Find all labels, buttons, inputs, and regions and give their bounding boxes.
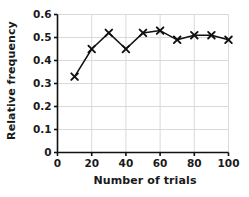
relative-frequency-chart: Relative frequency Number of trials 00.1… bbox=[0, 0, 249, 197]
y-tick-label: 0 bbox=[44, 146, 51, 158]
data-point-marker bbox=[106, 30, 113, 37]
x-tick-labels: 020406080100 bbox=[54, 157, 240, 169]
y-tick-labels: 00.10.20.30.40.50.6 bbox=[33, 8, 52, 158]
y-tick-label: 0.6 bbox=[33, 8, 52, 20]
y-tick-label: 0.1 bbox=[33, 123, 52, 135]
y-tick-label: 0.2 bbox=[33, 100, 52, 112]
y-tick-label: 0.3 bbox=[33, 77, 52, 89]
x-tick-label: 100 bbox=[218, 157, 240, 169]
x-tick-label: 0 bbox=[54, 157, 61, 169]
x-tick-label: 40 bbox=[119, 157, 134, 169]
y-tick-label: 0.5 bbox=[33, 31, 52, 43]
x-tick-label: 60 bbox=[153, 157, 168, 169]
x-tick-label: 20 bbox=[84, 157, 99, 169]
x-tick-label: 80 bbox=[187, 157, 202, 169]
data-point-marker bbox=[71, 73, 78, 80]
y-tick-label: 0.4 bbox=[33, 54, 52, 66]
plot-area: 00.10.20.30.40.50.6 020406080100 bbox=[0, 0, 249, 197]
